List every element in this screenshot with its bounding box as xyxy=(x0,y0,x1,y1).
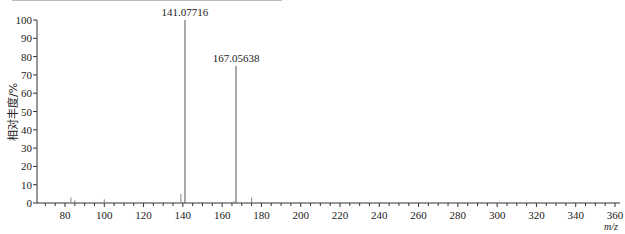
y-tick-label: 80 xyxy=(21,51,33,63)
y-tick-label: 50 xyxy=(21,106,33,118)
x-tick-label: 360 xyxy=(607,209,624,221)
x-tick-label: 320 xyxy=(528,209,545,221)
y-axis-title: 相对丰度/% xyxy=(6,83,20,141)
y-tick-label: 60 xyxy=(21,87,33,99)
y-tick-label: 0 xyxy=(27,197,33,209)
x-tick-label: 260 xyxy=(410,209,427,221)
y-tick-label: 20 xyxy=(21,160,33,172)
x-tick-label: 280 xyxy=(450,209,467,221)
x-tick-label: 80 xyxy=(60,209,72,221)
y-tick-label: 30 xyxy=(21,142,33,154)
y-tick-label: 100 xyxy=(16,14,33,26)
y-tick-label: 40 xyxy=(21,124,33,136)
x-tick-label: 220 xyxy=(332,209,349,221)
x-axis-unit: m/z xyxy=(604,221,618,232)
peak-label: 141.07716 xyxy=(162,6,209,18)
x-tick-label: 300 xyxy=(489,209,506,221)
y-tick-label: 10 xyxy=(21,179,33,191)
peaks: 141.07716167.05638 xyxy=(71,6,260,203)
x-tick-label: 100 xyxy=(96,209,113,221)
y-tick-label: 70 xyxy=(21,69,33,81)
x-tick-label: 120 xyxy=(135,209,152,221)
y-tick-label: 90 xyxy=(21,32,33,44)
x-tick-label: 180 xyxy=(253,209,270,221)
x-axis: 8010012014016018020022024026028030032034… xyxy=(37,203,624,221)
x-tick-label: 160 xyxy=(214,209,231,221)
mass-spectrum-chart: 0102030405060708090100 80100120140160180… xyxy=(0,0,625,234)
x-tick-label: 340 xyxy=(567,209,584,221)
x-tick-label: 200 xyxy=(292,209,309,221)
peak-label: 167.05638 xyxy=(213,52,260,64)
x-tick-label: 140 xyxy=(175,209,192,221)
x-tick-label: 240 xyxy=(371,209,388,221)
